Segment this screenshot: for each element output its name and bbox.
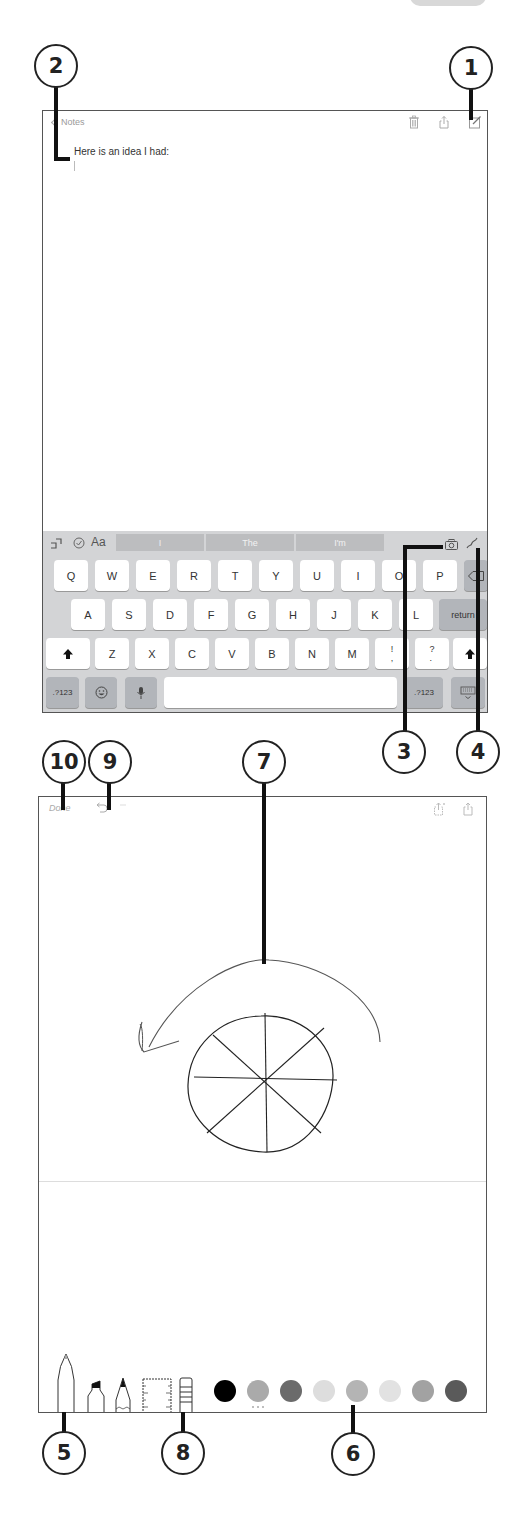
callout-1: 1 [449,46,493,90]
key-q[interactable]: Q [54,560,88,591]
pen-tool-icon[interactable] [56,1352,76,1413]
callout-4: 4 [456,730,500,774]
leader-line-7 [262,780,266,964]
key-j[interactable]: J [317,599,351,630]
page-tab-decoration [410,0,486,6]
key-b[interactable]: B [255,638,289,669]
key-d[interactable]: D [153,599,187,630]
palette-page-indicator [252,1406,264,1408]
key-y[interactable]: Y [259,560,293,591]
keyboard-dismiss-icon [460,686,476,700]
key-m[interactable]: M [335,638,369,669]
callout-7: 7 [242,740,286,784]
leader-line-3 [403,547,407,747]
color-swatch-3[interactable] [280,1380,302,1402]
note-editor-screen: Notes Here is an idea I had: [42,110,488,713]
key-e[interactable]: E [136,560,170,591]
callout-2: 2 [34,44,78,88]
camera-icon[interactable] [445,539,458,550]
suggestion-3[interactable]: I'm [296,534,384,551]
leader-line-2 [54,80,58,160]
key-r[interactable]: R [177,560,211,591]
pencil-tool-icon[interactable] [115,1376,131,1413]
keyboard: Aa I The I'm Q W E R T Y U I O P [43,531,487,712]
key-c[interactable]: C [175,638,209,669]
key-h[interactable]: H [276,599,310,630]
callout-9: 9 [88,740,132,784]
color-swatch-2[interactable] [247,1380,269,1402]
shift-key-right[interactable] [453,638,487,669]
text-cursor [74,161,75,171]
checklist-icon[interactable] [73,537,85,549]
numbers-key-right[interactable]: .?123 [405,677,443,708]
keyboard-shortcut-bar: Aa I The I'm [43,531,487,555]
key-g[interactable]: G [235,599,269,630]
key-w[interactable]: W [95,560,129,591]
numbers-key-left[interactable]: .?123 [46,677,79,708]
key-a[interactable]: A [71,599,105,630]
key-i[interactable]: I [341,560,375,591]
undo-icon[interactable] [50,537,62,549]
format-icon[interactable]: Aa [91,535,106,549]
callout-5: 5 [42,1431,86,1475]
callout-6: 6 [331,1432,375,1476]
key-s[interactable]: S [112,599,146,630]
shift-icon [464,648,476,660]
key-question-period[interactable]: ? . [415,638,449,669]
key-o[interactable]: O [382,560,416,591]
key-u[interactable]: U [300,560,334,591]
color-swatch-4[interactable] [313,1380,335,1402]
key-f[interactable]: F [194,599,228,630]
color-swatch-8[interactable] [445,1380,467,1402]
emoji-key[interactable] [85,677,117,708]
suggestion-2[interactable]: The [206,534,294,551]
color-swatch-7[interactable] [412,1380,434,1402]
microphone-icon [136,686,146,700]
suggestion-1[interactable]: I [116,534,204,551]
leader-line-10 [61,780,65,810]
key-z[interactable]: Z [95,638,129,669]
key-t[interactable]: T [218,560,252,591]
key-n[interactable]: N [295,638,329,669]
emoji-icon [95,686,108,699]
note-body-text[interactable]: Here is an idea I had: [74,146,169,157]
key-x[interactable]: X [135,638,169,669]
page-separator [39,1181,486,1182]
marker-tool-icon[interactable] [87,1376,105,1413]
trash-icon[interactable] [407,115,421,129]
leader-line-9 [107,780,111,810]
callout-3: 3 [382,730,426,774]
shift-key-left[interactable] [46,638,90,669]
space-bar[interactable] [164,677,397,708]
key-v[interactable]: V [215,638,249,669]
color-swatch-5[interactable] [346,1380,368,1402]
key-k[interactable]: K [358,599,392,630]
ruler-tool-icon[interactable] [142,1378,172,1413]
eraser-tool-icon[interactable] [179,1377,193,1413]
leader-line-3-hook [403,545,443,549]
shift-icon [62,648,74,660]
color-swatch-black[interactable] [214,1380,236,1402]
dictation-key[interactable] [125,677,157,708]
key-p[interactable]: P [423,560,457,591]
leader-line-4 [476,548,480,748]
leader-line-2-hook [54,157,70,161]
callout-8: 8 [161,1431,205,1475]
callout-10: 10 [42,740,86,784]
share-icon[interactable] [437,115,451,129]
color-swatch-6[interactable] [379,1380,401,1402]
note-nav-bar: Notes [43,111,487,135]
back-label: Notes [61,117,85,127]
